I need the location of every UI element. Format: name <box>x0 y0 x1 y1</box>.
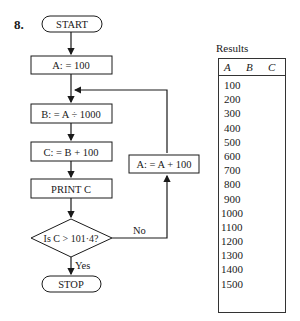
init-label: A: = 100 <box>52 60 89 71</box>
table-row: 600 <box>219 149 285 163</box>
problem-number: 8. <box>14 17 24 32</box>
results-table: A B C 100 200 300 400 500 600 700 800 90… <box>218 58 286 313</box>
table-row: 1400 <box>219 262 285 276</box>
table-row: 1500 <box>219 277 285 291</box>
results-title: Results <box>216 42 248 54</box>
table-row: 1000 <box>219 206 285 220</box>
table-row: 1200 <box>219 234 285 248</box>
increment-label: A: = A + 100 <box>136 159 191 170</box>
results-header: A B C <box>219 59 285 76</box>
table-row: 400 <box>219 121 285 135</box>
step-b-label: B: = A ÷ 1000 <box>41 109 101 120</box>
no-label: No <box>133 225 146 236</box>
table-row: 500 <box>219 135 285 149</box>
table-row: 100 <box>219 78 285 92</box>
column-b-header: B <box>241 59 263 75</box>
table-row: 700 <box>219 163 285 177</box>
results-rows: 100 200 300 400 500 600 700 800 900 1000… <box>219 76 285 291</box>
start-label: START <box>56 19 88 30</box>
table-row: 900 <box>219 192 285 206</box>
print-label: PRINT C <box>51 184 91 195</box>
decision-label: Is C > 101·4? <box>44 233 99 244</box>
table-row: 1100 <box>219 220 285 234</box>
table-row: 1300 <box>219 248 285 262</box>
column-a-header: A <box>219 59 241 75</box>
step-c-label: C: = B + 100 <box>43 147 98 158</box>
table-row: 200 <box>219 92 285 106</box>
yes-label: Yes <box>75 260 90 271</box>
stop-label: STOP <box>58 279 84 290</box>
table-row: 800 <box>219 177 285 191</box>
column-c-header: C <box>263 59 285 75</box>
table-row: 300 <box>219 106 285 120</box>
